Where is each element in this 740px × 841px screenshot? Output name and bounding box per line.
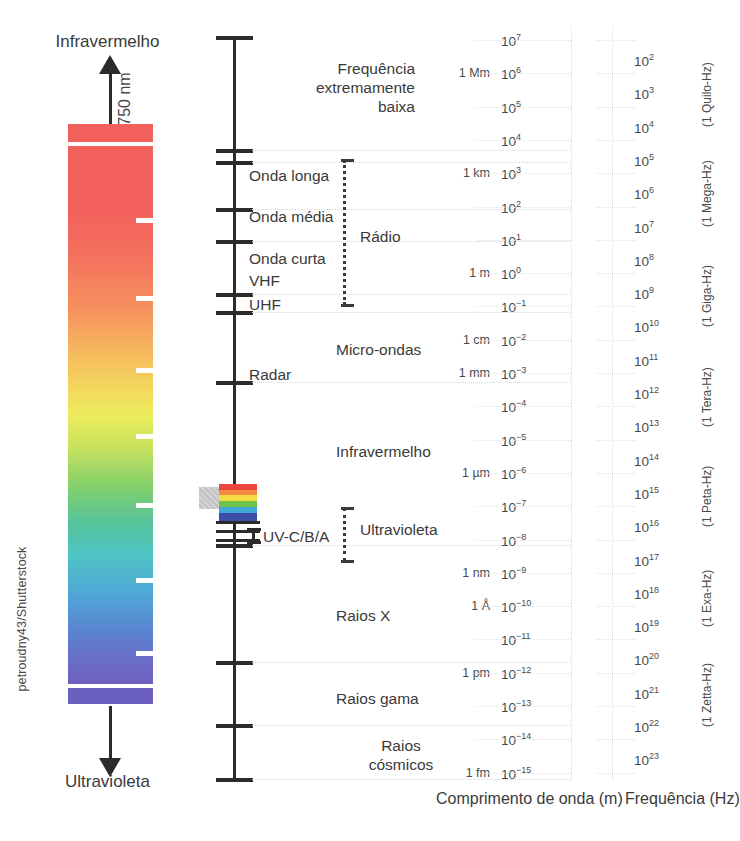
frequency-unit: (1 Quilo-Hz): [700, 63, 714, 128]
scale-leader-line: [476, 506, 571, 507]
scale-leader-line: [476, 273, 571, 274]
axis-tick: [216, 381, 253, 385]
scale-leader-line: [476, 107, 571, 108]
leader-line: [252, 725, 570, 726]
scale-leader-line: [597, 706, 635, 707]
spectrum-bar-gradient: [68, 146, 153, 684]
band-cosmic-line1: Raios: [381, 737, 421, 754]
scale-leader-line: [597, 739, 635, 740]
scale-leader-line: [476, 340, 571, 341]
leader-line: [252, 162, 570, 163]
bracket-cap-bottom: [341, 304, 354, 307]
scale-leader-line: [476, 140, 571, 141]
leader-line: [252, 382, 570, 383]
wavelength-axis-title: Comprimento de onda (m): [436, 790, 623, 808]
scale-leader-line: [597, 773, 635, 774]
band-radio: Rádio: [360, 228, 480, 247]
scale-leader-line: [476, 706, 571, 707]
frequency-value: 1013: [634, 418, 659, 435]
frequency-unit: (1 Exa-Hz): [700, 569, 714, 626]
frequency-value: 1010: [634, 318, 659, 335]
frequency-value: 1014: [634, 452, 659, 469]
axis-tick: [216, 311, 253, 315]
spectrum-tick: [136, 578, 153, 583]
frequency-value: 1019: [634, 618, 659, 635]
axis-tick: [216, 161, 253, 165]
sub-band-vhf: VHF: [249, 272, 280, 291]
sub-band-uv-cba: UV-C/B/A: [263, 528, 329, 546]
visible-panel-top-label: Infravermelho: [0, 32, 215, 52]
axis-tick: [216, 661, 253, 665]
spectrum-bar-top-segment: [68, 124, 153, 142]
frequency-unit: (1 Tera-Hz): [700, 367, 714, 427]
spectrum-tick: [136, 503, 153, 508]
frequency-value: 107: [634, 219, 654, 236]
frequency-value: 1015: [634, 485, 659, 502]
image-credit: petroudny43/Shutterstock: [15, 519, 29, 719]
frequency-value: 105: [634, 152, 654, 169]
axis-tick: [216, 149, 253, 153]
spectrum-tick: [136, 434, 153, 439]
scale-leader-line: [476, 173, 571, 174]
scale-leader-line: [597, 606, 635, 607]
scale-leader-line: [597, 306, 635, 307]
frequency-value: 103: [634, 85, 654, 102]
scale-leader-line: [476, 440, 571, 441]
scale-leader-line: [476, 306, 571, 307]
frequency-value: 1023: [634, 751, 659, 768]
radio-group-bracket: [343, 160, 349, 305]
scale-leader-line: [476, 406, 571, 407]
scale-leader-line: [597, 639, 635, 640]
frequency-value: 106: [634, 185, 654, 202]
scale-leader-line: [476, 373, 571, 374]
scale-leader-line: [597, 406, 635, 407]
spectrum-tick: [136, 368, 153, 373]
frequency-axis-title: Frequência (Hz): [625, 790, 740, 808]
leader-line: [252, 662, 570, 663]
frequency-unit: (1 Peta-Hz): [700, 466, 714, 527]
scale-leader-line: [476, 673, 571, 674]
scale-leader-line: [476, 540, 571, 541]
axis-tick: [216, 293, 253, 297]
spectrum-axis: [233, 36, 236, 782]
band-gamma: Raios gama: [336, 690, 466, 709]
axis-tick: [216, 724, 253, 728]
frequency-unit: (1 Mega-Hz): [700, 161, 714, 228]
scale-leader-line: [597, 173, 635, 174]
spectrum-tick: [136, 651, 153, 656]
scale-leader-line: [476, 40, 571, 41]
scale-leader-line: [476, 739, 571, 740]
scale-leader-line: [476, 573, 571, 574]
sub-band-uhf: UHF: [249, 296, 281, 315]
scale-leader-line: [476, 73, 571, 74]
visible-light-gray-block: [199, 487, 219, 509]
frequency-unit: (1 Zetta-Hz): [700, 663, 714, 727]
scale-leader-line: [597, 140, 635, 141]
sub-band-short-wave: Onda curta: [249, 250, 326, 269]
frequency-value: 108: [634, 252, 654, 269]
band-elf: Frequência extremamente baixa: [250, 60, 415, 117]
scale-leader-line: [597, 540, 635, 541]
sub-band-long-wave: Onda longa: [249, 167, 329, 186]
visible-panel-bottom-label: Ultravioleta: [0, 772, 215, 792]
uv-tick: [216, 521, 260, 524]
scale-leader-line: [597, 373, 635, 374]
scale-leader-line: [476, 240, 571, 241]
frequency-unit: (1 Giga-Hz): [700, 265, 714, 327]
frequency-value: 102: [634, 52, 654, 69]
frequency-value: 109: [634, 285, 654, 302]
bracket-cap-top: [341, 507, 354, 510]
axis-tick: [216, 778, 253, 782]
visible-spectrum-bar: [68, 124, 153, 709]
spectrum-tick: [136, 296, 153, 301]
axis-tick: [216, 208, 253, 212]
scale-leader-line: [597, 573, 635, 574]
ultraviolet-arrow-shaft: [109, 706, 112, 762]
scale-leader-line: [597, 40, 635, 41]
band-infrared: Infravermelho: [336, 443, 476, 462]
frequency-value: 1017: [634, 552, 659, 569]
bracket-cap-bottom: [341, 560, 354, 563]
frequency-value: 104: [634, 119, 654, 136]
scale-leader-line: [597, 340, 635, 341]
scale-leader-line: [597, 240, 635, 241]
